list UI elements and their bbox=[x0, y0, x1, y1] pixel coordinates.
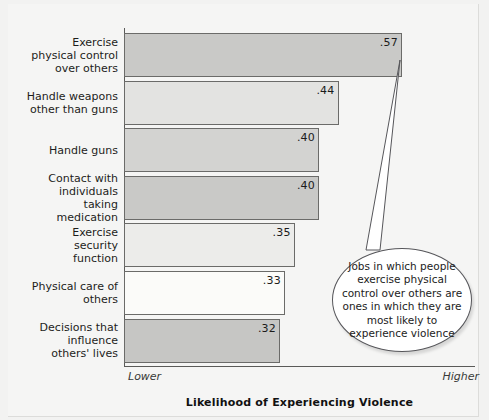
bar-value-label: .32 bbox=[258, 322, 276, 335]
x-axis-high-label: Higher bbox=[442, 370, 479, 383]
bar bbox=[124, 223, 295, 267]
bar bbox=[124, 81, 339, 125]
bar-row: .40 bbox=[124, 128, 319, 172]
category-label: Physical care of others bbox=[26, 280, 118, 306]
category-label: Contact with individuals taking medicati… bbox=[26, 172, 118, 224]
bar bbox=[124, 128, 319, 172]
chart-figure: Characteristics of Jobs Likelihood of Ex… bbox=[0, 0, 489, 420]
category-label: Handle guns bbox=[26, 144, 118, 157]
x-axis-line bbox=[124, 366, 475, 367]
callout-tail-icon bbox=[340, 60, 410, 255]
x-axis-low-label: Lower bbox=[128, 370, 161, 383]
callout-text: Jobs in which people exercise physical c… bbox=[340, 260, 464, 341]
category-label: Decisions that influence others' lives bbox=[26, 321, 118, 360]
bar bbox=[124, 319, 280, 363]
bar bbox=[124, 176, 319, 220]
bar-row: .32 bbox=[124, 319, 280, 363]
bar-value-label: .35 bbox=[273, 226, 291, 239]
bar-value-label: .57 bbox=[380, 36, 398, 49]
bar-value-label: .44 bbox=[316, 84, 334, 97]
bar-row: .33 bbox=[124, 271, 285, 315]
bar-value-label: .40 bbox=[297, 131, 315, 144]
bar-row: .40 bbox=[124, 176, 319, 220]
bar-row: .44 bbox=[124, 81, 339, 125]
category-label: Exercise security function bbox=[26, 226, 118, 265]
x-axis-title: Likelihood of Experiencing Violence bbox=[124, 396, 475, 409]
category-label: Exercise physical control over others bbox=[26, 36, 118, 75]
bar-row: .35 bbox=[124, 223, 295, 267]
category-label: Handle weapons other than guns bbox=[26, 90, 118, 116]
bar bbox=[124, 271, 285, 315]
bar-value-label: .40 bbox=[297, 179, 315, 192]
bar-value-label: .33 bbox=[263, 274, 281, 287]
callout-bubble: Jobs in which people exercise physical c… bbox=[332, 248, 472, 352]
